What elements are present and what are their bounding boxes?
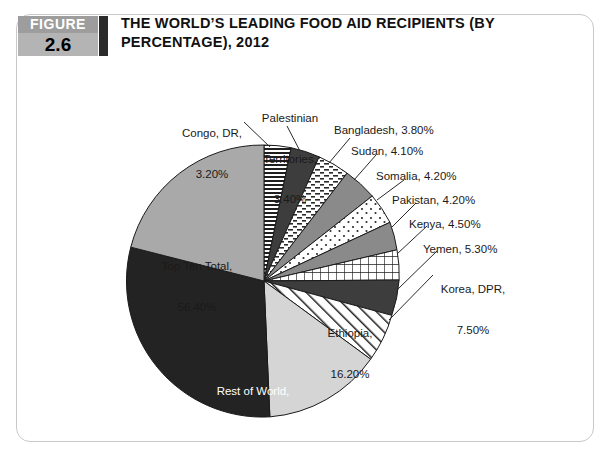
figure-badge-number: 2.6: [18, 33, 98, 56]
figure-page: FIGURE 2.6 THE WORLD’S LEADING FOOD AID …: [0, 0, 612, 465]
page-title: THE WORLD’S LEADING FOOD AID RECIPIENTS …: [121, 14, 561, 52]
figure-header: FIGURE 2.6 THE WORLD’S LEADING FOOD AID …: [18, 14, 560, 68]
figure-badge-bar: [99, 16, 108, 56]
figure-badge-word: FIGURE: [18, 16, 98, 33]
figure-badge: FIGURE 2.6: [18, 16, 110, 56]
figure-card: [16, 14, 594, 442]
